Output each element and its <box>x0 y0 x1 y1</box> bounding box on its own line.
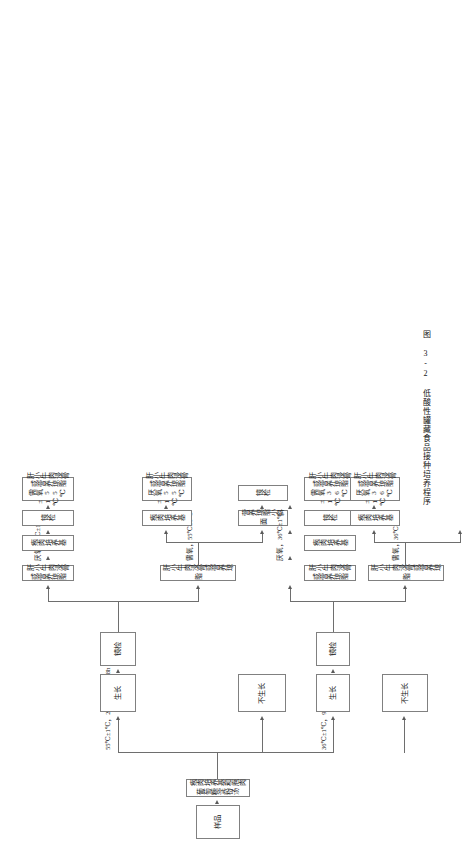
node-micro-36: 镜检 <box>316 632 350 666</box>
arrow-to-nogrowth-55 <box>260 716 264 720</box>
node-nogrowth-55: 不生长 <box>238 674 286 712</box>
micro36-out <box>333 602 334 632</box>
line-36-aerobic <box>405 588 406 602</box>
node-36b-med: 疱肉培养基 <box>350 510 400 526</box>
figure-caption: 图 3-2 低酸性罐藏食品接种培养程序 <box>420 330 431 506</box>
arrow-to-36a-in <box>288 585 292 589</box>
arrow-to-55b-in <box>196 585 200 589</box>
line-36b-to-med <box>374 533 375 543</box>
node-55b-in: 肝小牛肉浸膏或营养琼脂 <box>160 565 236 581</box>
node-growth-36: 生长 <box>316 674 350 712</box>
node-medium-main: 疱肉培养基和庖肉葡萄糖淀粉汤 <box>186 779 250 797</box>
node-36a-out: 肝小牛肉浸膏或营养琼脂 需氧36℃±1℃ <box>304 477 356 501</box>
arrow-55a-in-to-med <box>46 556 50 560</box>
node-55a-med: 疱肉培养基 <box>22 535 74 551</box>
label-anaerobic-36: 厌氧，36℃±1℃ <box>276 512 284 561</box>
arrow-55b-slant-to-micro <box>260 505 264 509</box>
node-55a-out: 肝小牛肉浸膏或营养琼脂 需氧55℃±1℃ <box>22 477 74 501</box>
arrow-36a-in-to-med <box>288 556 292 560</box>
arrow-sample-to-medium <box>215 800 219 804</box>
arrow-to-55a-in <box>46 585 50 589</box>
node-sample: 样品 <box>196 805 240 839</box>
arrow-55b-to-slant <box>260 530 264 534</box>
node-55b-micro: 镜检 <box>238 485 288 501</box>
arrow-36a-med-to-micro <box>288 530 292 534</box>
line-36b-stem <box>405 543 406 565</box>
node-36b-in: 肝小牛肉浸膏或营养琼脂 <box>368 565 444 581</box>
node-55a-micro: 镜检 <box>22 510 74 526</box>
line-55b-split <box>166 542 262 543</box>
node-36a-med: 疱肉培养基 <box>304 535 356 551</box>
node-55b-out: 肝小牛肉浸膏或营养琼脂 厌氧55℃±1℃ <box>142 477 192 501</box>
arrow-to-growth-36 <box>331 716 335 720</box>
micro36-split <box>290 601 405 602</box>
line-55-aerobic <box>198 588 199 602</box>
node-36a-micro: 镜检 <box>304 510 356 526</box>
micro55-out <box>118 602 119 632</box>
node-micro-55: 镜检 <box>100 632 136 666</box>
arrow-growth55-to-micro55 <box>116 669 120 673</box>
arrow-to-36b-in <box>403 585 407 589</box>
line-36-anaerobic <box>290 588 291 602</box>
arrow-36b-to-med <box>372 530 376 534</box>
trunk-horizontal <box>217 753 218 779</box>
branch-36-line <box>333 719 334 753</box>
node-nogrowth-36: 不生长 <box>382 674 428 712</box>
line-36b-to-slant <box>460 533 461 543</box>
arrow-to-growth-55 <box>116 716 120 720</box>
line-36b-split <box>374 542 460 543</box>
line-55b-stem <box>198 543 199 565</box>
arrow-growth36-to-micro36 <box>331 669 335 673</box>
line-55-nogrowth <box>262 719 263 753</box>
arrow-36b-to-slant <box>458 530 462 534</box>
node-36a-in: 肝小牛肉浸膏或营养琼脂 <box>304 565 356 581</box>
arrow-36a-micro-to-out <box>288 505 292 509</box>
arrow-to-nogrowth-36 <box>402 716 406 720</box>
arrow-55a-med-to-micro <box>46 530 50 534</box>
node-55a-in: 肝小牛肉浸膏或营养琼脂 <box>22 565 74 581</box>
line-36-nogrowth <box>404 719 405 753</box>
branch-55-line <box>118 719 119 753</box>
arrow-55b-to-med <box>164 530 168 534</box>
line-55-anaerobic <box>48 588 49 602</box>
node-55b-med: 疱肉培养基 <box>142 510 192 526</box>
line-55b-to-med <box>166 533 167 543</box>
line-55b-to-slant <box>262 533 263 543</box>
micro55-split <box>48 601 198 602</box>
node-growth-55: 生长 <box>100 674 136 712</box>
node-36b-out: 肝小牛肉浸膏或营养琼脂 厌氧36℃±1℃ <box>350 477 400 501</box>
trunk-split-vertical <box>118 752 333 753</box>
